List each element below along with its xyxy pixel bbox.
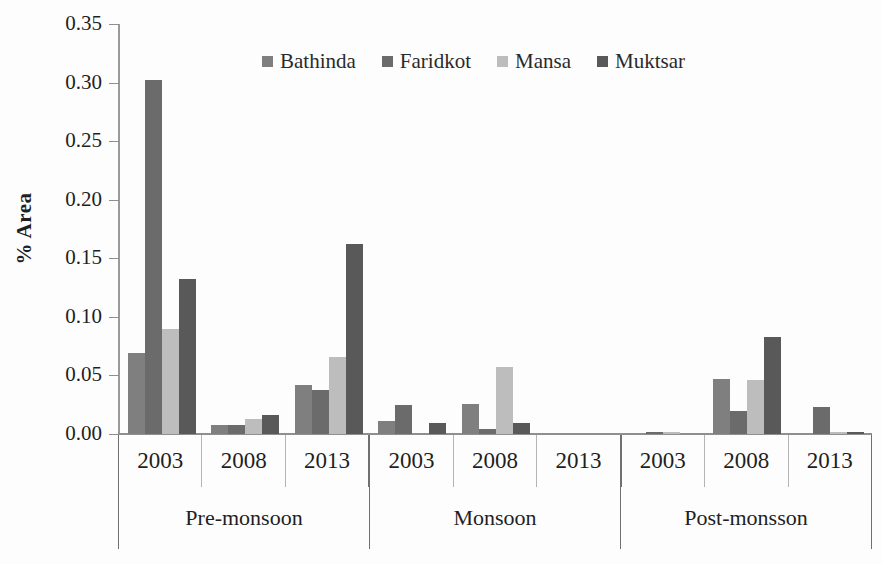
bar-bathinda[interactable] <box>295 385 312 434</box>
bar-muktsar[interactable] <box>346 244 363 434</box>
bar-group <box>287 24 371 434</box>
bar-group <box>705 24 789 434</box>
x-axis-year-labels: 200320082013200320082013200320082013 <box>118 435 872 487</box>
y-tick-label: 0.25 <box>26 130 102 151</box>
y-tick-label: 0.15 <box>26 247 102 268</box>
x-axis-year-cell: 2013 <box>789 435 872 487</box>
bar-bathinda[interactable] <box>378 421 395 434</box>
y-tick-label: 0.00 <box>26 423 102 444</box>
bar-group <box>120 24 204 434</box>
bar-group <box>538 24 622 434</box>
bar-muktsar[interactable] <box>179 279 196 434</box>
bar-muktsar[interactable] <box>429 423 446 434</box>
y-tick-mark <box>109 434 119 435</box>
x-axis-year-cell: 2008 <box>705 435 788 487</box>
bar-bathinda[interactable] <box>713 379 730 434</box>
bar-group <box>371 24 455 434</box>
y-tick-mark <box>109 317 119 318</box>
y-tick-label: 0.20 <box>26 189 102 210</box>
bar-bathinda[interactable] <box>211 425 228 434</box>
bar-muktsar[interactable] <box>764 337 781 434</box>
bar-mansa[interactable] <box>329 357 346 434</box>
y-tick-label: 0.10 <box>26 306 102 327</box>
bar-mansa[interactable] <box>747 380 764 434</box>
x-axis-year-cell: 2003 <box>118 435 202 487</box>
x-axis-season-cell: Pre-monsoon <box>118 487 370 549</box>
bar-muktsar[interactable] <box>847 432 864 434</box>
x-axis-season-cell: Monsoon <box>370 487 621 549</box>
y-tick-label: 0.05 <box>26 364 102 385</box>
x-axis-season-cell: Post-monsson <box>621 487 872 549</box>
y-tick-mark <box>109 258 119 259</box>
y-tick-mark <box>109 83 119 84</box>
bar-muktsar[interactable] <box>262 415 279 434</box>
bar-mansa[interactable] <box>663 432 680 434</box>
bar-mansa[interactable] <box>496 367 513 434</box>
bar-faridkot[interactable] <box>228 425 245 434</box>
y-tick-mark <box>109 24 119 25</box>
bar-chart: BathindaFaridkotMansaMuktsar % Area 0.35… <box>0 0 882 564</box>
plot-area <box>120 24 872 434</box>
y-tick-mark <box>109 141 119 142</box>
bar-faridkot[interactable] <box>730 411 747 434</box>
bar-faridkot[interactable] <box>145 80 162 434</box>
y-tick-mark <box>109 375 119 376</box>
x-axis-year-cell: 2008 <box>202 435 285 487</box>
x-axis-year-cell: 2013 <box>537 435 620 487</box>
x-axis-year-cell: 2003 <box>369 435 453 487</box>
bar-bathinda[interactable] <box>128 353 145 434</box>
x-axis-year-cell: 2008 <box>454 435 537 487</box>
x-axis-year-cell: 2013 <box>286 435 369 487</box>
y-axis-tick-labels: 0.350.300.250.200.150.100.050.00 <box>26 14 102 434</box>
x-axis-year-cell: 2003 <box>621 435 705 487</box>
bar-mansa[interactable] <box>162 329 179 434</box>
bar-mansa[interactable] <box>245 419 262 434</box>
bar-muktsar[interactable] <box>513 423 530 434</box>
bar-mansa[interactable] <box>830 432 847 434</box>
bar-faridkot[interactable] <box>646 432 663 434</box>
bar-group <box>621 24 705 434</box>
bar-faridkot[interactable] <box>479 429 496 434</box>
bar-group <box>788 24 872 434</box>
bar-faridkot[interactable] <box>312 390 329 435</box>
y-tick-label: 0.35 <box>26 13 102 34</box>
bar-bathinda[interactable] <box>462 404 479 434</box>
bar-faridkot[interactable] <box>395 405 412 434</box>
bar-group <box>204 24 288 434</box>
bar-group <box>454 24 538 434</box>
y-tick-label: 0.30 <box>26 72 102 93</box>
x-axis-season-labels: Pre-monsoonMonsoonPost-monsson <box>118 487 872 549</box>
bar-faridkot[interactable] <box>813 407 830 434</box>
y-tick-mark <box>109 200 119 201</box>
